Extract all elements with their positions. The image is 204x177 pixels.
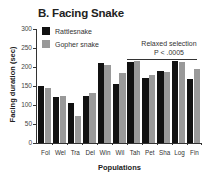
bar-del-rattlesnake [83,96,89,144]
bar-pet-rattlesnake [142,78,148,143]
bar-tah-rattlesnake [127,62,133,143]
x-tick-label: Win [97,149,113,156]
bar-wil-gopher-snake [119,73,125,143]
significance-annotation: Relaxed selection P < .0005 [130,39,204,57]
bar-wel-rattlesnake [53,97,59,143]
x-tick-label: Wil [112,149,128,156]
legend-label-rattlesnake: Rattlesnake [55,28,92,35]
bar-wil-rattlesnake [113,84,119,143]
annotation-line-1: Relaxed selection [130,39,204,48]
y-tick-label: 150 [10,82,32,89]
legend-label-gopher: Gopher snake [55,41,99,48]
y-axis [36,29,37,144]
y-tick [33,105,36,106]
bar-tah-gopher-snake [134,61,140,143]
y-tick-label: 200 [10,63,32,70]
bar-win-gopher-snake [104,65,110,143]
x-tick-label: Log [172,149,188,156]
bar-sha-rattlesnake [157,71,163,143]
x-tick [112,143,113,145]
x-tick-label: Tra [67,149,83,156]
x-tick-label: Del [82,149,98,156]
x-tick [157,143,158,145]
bar-pet-gopher-snake [149,75,155,143]
bar-fin-rattlesnake [187,79,193,143]
bar-fol-rattlesnake [38,86,44,143]
bar-wel-gopher-snake [60,96,66,144]
y-tick [33,67,36,68]
x-tick-label: Fin [186,149,202,156]
bar-tra-rattlesnake [68,103,74,143]
y-tick-label: 250 [10,44,32,51]
legend-swatch-gopher [42,40,50,48]
x-tick [82,143,83,145]
x-axis-label: Populations [37,163,202,172]
y-tick-label: 0 [10,139,32,146]
bar-del-gopher-snake [89,93,95,143]
bar-log-rattlesnake [172,61,178,143]
x-axis [36,143,202,144]
x-tick [172,143,173,145]
x-tick [142,143,143,145]
y-tick [33,48,36,49]
x-tick [67,143,68,145]
y-tick-label: 100 [10,101,32,108]
bar-tra-gopher-snake [75,116,81,143]
x-tick [97,143,98,145]
bar-fol-gopher-snake [45,88,51,143]
significance-bracket [127,59,197,60]
legend-swatch-rattlesnake [42,27,50,35]
x-tick-label: Tah [127,149,143,156]
bar-win-rattlesnake [98,63,104,143]
x-tick-label: Wel [52,149,68,156]
x-tick-label: Fol [37,149,53,156]
x-tick [52,143,53,145]
x-tick [187,143,188,145]
y-tick [33,86,36,87]
y-tick-label: 50 [10,120,32,127]
bar-fin-gopher-snake [194,69,200,143]
bar-log-gopher-snake [179,62,185,143]
x-tick [201,143,202,145]
bar-sha-gopher-snake [164,72,170,143]
annotation-line-2: P < .0005 [130,48,204,57]
x-tick-label: Sha [157,149,173,156]
legend-item-gopher: Gopher snake [42,40,99,48]
legend-item-rattlesnake: Rattlesnake [42,27,92,35]
y-tick [33,143,36,144]
y-tick-label: 300 [10,25,32,32]
x-tick [127,143,128,145]
x-tick-label: Pet [142,149,158,156]
chart-title: B. Facing Snake [38,7,124,19]
y-tick [33,29,36,30]
y-tick [33,124,36,125]
